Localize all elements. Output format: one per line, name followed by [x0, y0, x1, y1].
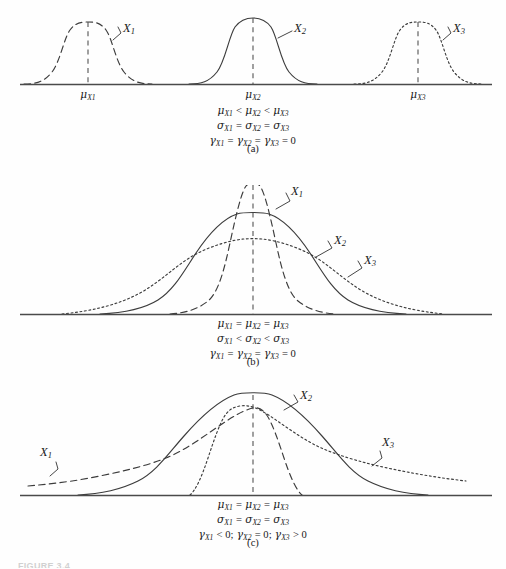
leader-x3-panel-a	[443, 27, 451, 40]
curve-label-x3-panel-b: X3	[364, 254, 376, 268]
curve-label-x3-panel-c: X3	[382, 436, 394, 450]
mean-label-x3-panel-a: μX3	[410, 89, 425, 102]
curve-label-x1-panel-c: X1	[40, 446, 52, 460]
equation-line: σX1 = σX2 = σX3	[0, 120, 506, 135]
figure-caption-partial: FIGURE 3.4	[18, 561, 148, 568]
leader-x3-panel-c	[372, 451, 382, 466]
panel-c: X1 X2 X3 μX1 = μX2 = μX3 σX1 = σX2 = σX3…	[0, 378, 506, 569]
curve-label-x2-panel-b: X2	[334, 234, 346, 248]
panel-tag-a: (a)	[0, 143, 506, 154]
equation-line: μX1 < μX2 < μX3	[0, 105, 506, 120]
leader-x3-panel-b	[348, 261, 362, 277]
curve-label-x2-panel-c: X2	[300, 389, 312, 403]
panel-tag-b: (b)	[0, 356, 506, 367]
panel-tag-c: (c)	[0, 537, 506, 548]
figure-root: X1 X2 X3 μX1 μX2 μX3 μX1 < μX2 < μX3 σX1…	[0, 0, 506, 569]
panel-a: X1 X2 X3 μX1 μX2 μX3 μX1 < μX2 < μX3 σX1…	[0, 0, 506, 190]
panel-b: X1 X2 X3 μX1 = μX2 = μX3 σX1 < σX2 < σX3…	[0, 185, 506, 380]
leader-x1-panel-a	[113, 27, 121, 40]
leader-x1-panel-c	[50, 462, 58, 476]
panel-b-graphic	[0, 185, 506, 325]
mean-label-x1-panel-a: μX1	[80, 89, 95, 102]
panel-c-graphic	[0, 378, 506, 518]
curve-label-x3-panel-a: X3	[453, 22, 465, 36]
curve-x3-panel-c	[190, 406, 466, 495]
leader-x2-panel-a	[278, 31, 292, 38]
curve-label-x1-panel-a: X1	[123, 22, 135, 36]
curve-x1-panel-c	[28, 408, 302, 495]
curve-label-x1-panel-b: X1	[291, 185, 303, 199]
mean-label-x2-panel-a: μX2	[245, 89, 260, 102]
equation-line: μX1 = μX2 = μX3	[0, 318, 506, 333]
leader-x2-panel-b	[316, 241, 332, 257]
curve-label-x2-panel-a: X2	[294, 22, 306, 36]
leader-x1-panel-b	[276, 193, 290, 209]
equation-line: μX1 = μX2 = μX3	[0, 499, 506, 514]
equation-line: σX1 = σX2 = σX3	[0, 514, 506, 529]
equation-line: σX1 < σX2 < σX3	[0, 333, 506, 348]
